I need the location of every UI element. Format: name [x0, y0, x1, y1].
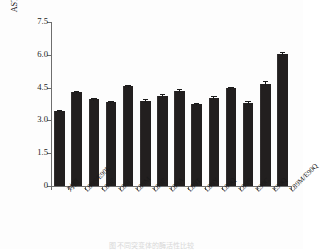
- bar: [174, 91, 185, 186]
- error-bar-cap: [108, 101, 114, 102]
- y-axis-title: ASTⅣ 酶活性(U/mL): [8, 0, 22, 42]
- x-axis-label-13: L89M/E90Q: [288, 188, 294, 194]
- bar: [54, 111, 65, 186]
- x-axis-label-4: L89M: [134, 188, 140, 194]
- plot-area: 01.53.04.56.07.5: [51, 22, 291, 186]
- x-axis-label-11: E90C: [254, 188, 260, 194]
- y-tick-1: 1.5: [51, 153, 52, 154]
- y-tick-label: 3.0: [37, 114, 48, 125]
- bar: [140, 101, 151, 186]
- bar: [209, 98, 220, 186]
- x-axis-label-3: L89I: [117, 188, 123, 194]
- x-axis-label-6: L89A: [168, 188, 174, 194]
- bar-group: [71, 22, 82, 186]
- bar: [260, 84, 271, 186]
- error-bar-cap: [263, 81, 269, 82]
- bar: [226, 88, 237, 186]
- figure-caption: 图 不同突变体的酶活性比较: [0, 240, 303, 250]
- bar-group: [277, 22, 288, 186]
- x-axis-labels: 对照L89S/E90LL89EL89IL89ML89FL89AL89TL89YL…: [51, 188, 301, 246]
- x-axis-label-7: L89T: [186, 188, 192, 194]
- bar-group: [191, 22, 202, 186]
- y-tick-5: 7.5: [51, 22, 52, 23]
- bar: [277, 54, 288, 186]
- x-axis-label-5: L89F: [151, 188, 157, 194]
- y-tick-label: 4.5: [37, 82, 48, 93]
- bar: [157, 96, 168, 186]
- error-bar-cap: [280, 52, 286, 53]
- x-axis-label-12: E90Q: [271, 188, 277, 194]
- y-tick-2: 3.0: [51, 120, 52, 121]
- y-tick-label: 1.5: [37, 147, 48, 158]
- error-bar-cap: [228, 87, 234, 88]
- x-axis-label-2: L89E: [100, 188, 106, 194]
- x-axis-label-10: L89S: [237, 188, 243, 194]
- error-bar-cap: [177, 89, 183, 90]
- error-bar-cap: [57, 110, 63, 111]
- x-axis-label-9: L89Q: [220, 188, 226, 194]
- error-bar-cap: [125, 85, 131, 86]
- bar: [191, 104, 202, 186]
- bar-group: [226, 22, 237, 186]
- y-tick-label: 6.0: [37, 49, 48, 60]
- error-bar-cap: [143, 99, 149, 100]
- bar-group: [243, 22, 254, 186]
- y-tick-label: 0: [44, 180, 48, 191]
- bar-group: [106, 22, 117, 186]
- bar-group: [54, 22, 65, 186]
- bar-group: [260, 22, 271, 186]
- bar-group: [140, 22, 151, 186]
- error-bar-cap: [194, 103, 200, 104]
- y-tick-4: 6.0: [51, 55, 52, 56]
- bar: [123, 86, 134, 186]
- bar: [71, 92, 82, 186]
- bar: [243, 103, 254, 186]
- error-bar-cap: [160, 94, 166, 95]
- error-bar-cap: [74, 91, 80, 92]
- error-bar-cap: [245, 101, 251, 102]
- error-bar-cap: [211, 96, 217, 97]
- bar-group: [174, 22, 185, 186]
- y-axis-line: [51, 22, 52, 186]
- bar-group: [157, 22, 168, 186]
- error-bar-cap: [91, 98, 97, 99]
- y-tick-3: 4.5: [51, 88, 52, 89]
- x-axis-label-1: L89S/E90L: [83, 188, 89, 194]
- bar-group: [89, 22, 100, 186]
- x-axis-label-8: L89Y: [203, 188, 209, 194]
- bar-group: [209, 22, 220, 186]
- y-tick-label: 7.5: [37, 16, 48, 27]
- bar-group: [123, 22, 134, 186]
- x-axis-label-0: 对照: [66, 188, 72, 194]
